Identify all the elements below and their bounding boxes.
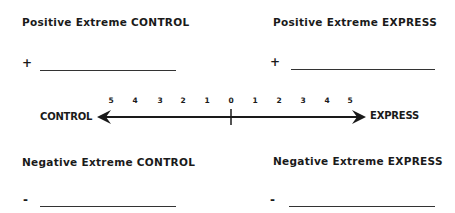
heading-negative-express: Negative Extreme EXPRESS <box>273 155 443 167</box>
negative-control-blank-line[interactable] <box>40 206 176 207</box>
minus-sign-negative-express: - <box>270 193 275 207</box>
heading-negative-control: Negative Extreme CONTROL <box>22 156 195 168</box>
scale-axis <box>0 0 455 213</box>
minus-sign-negative-control: - <box>23 193 28 207</box>
negative-express-blank-line[interactable] <box>289 206 435 207</box>
